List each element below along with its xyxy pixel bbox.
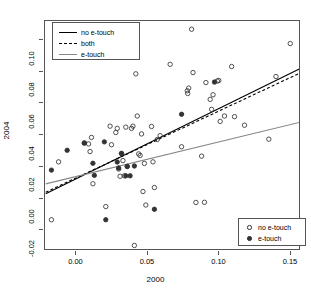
data-point-no-e-touch: [222, 114, 226, 118]
marker-legend: no e-touch e-touch: [238, 218, 306, 246]
data-point-no-e-touch: [186, 91, 190, 95]
legend-row-e-touch-marker: e-touch: [244, 233, 300, 244]
data-point-no-e-touch: [202, 200, 206, 204]
x-tick-mark: [147, 251, 148, 255]
y-tick-mark: [39, 229, 43, 230]
y-axis-title: 2004: [2, 111, 11, 151]
data-point-no-e-touch: [208, 97, 212, 101]
data-point-no-e-touch: [168, 62, 172, 66]
data-point-no-e-touch: [134, 72, 138, 76]
dashed-black-line-key: [58, 38, 78, 49]
x-axis-title: 2000: [0, 275, 311, 284]
x-tick-label: 0.10: [198, 257, 238, 266]
data-point-no-e-touch: [211, 93, 215, 97]
data-point-no-e-touch: [274, 74, 278, 78]
legend-label-both-line: both: [78, 38, 95, 49]
data-point-no-e-touch: [132, 243, 136, 247]
data-point-no-e-touch: [124, 125, 128, 129]
data-point-no-e-touch: [209, 107, 213, 111]
data-point-no-e-touch: [108, 124, 112, 128]
legend-row-no-e-touch-marker: no e-touch: [244, 222, 300, 233]
legend-row-both-line: both: [58, 38, 134, 49]
data-point-no-e-touch: [232, 114, 236, 118]
line-legend: no e-touch both e-touch: [52, 22, 140, 60]
y-tick-mark: [39, 134, 43, 135]
x-tick-label: 0.00: [55, 257, 95, 266]
data-point-no-e-touch: [139, 132, 143, 136]
data-point-no-e-touch: [194, 200, 198, 204]
data-point-e-touch: [128, 174, 132, 178]
legend-row-e-touch-line: e-touch: [58, 49, 134, 60]
data-point-no-e-touch: [152, 185, 156, 189]
data-point-e-touch: [119, 151, 123, 155]
x-tick-mark: [290, 251, 291, 255]
data-point-e-touch: [115, 160, 119, 164]
data-point-no-e-touch: [267, 137, 271, 141]
data-point-no-e-touch: [86, 142, 90, 146]
data-point-no-e-touch: [91, 182, 95, 186]
data-point-e-touch: [92, 173, 96, 177]
legend-label-e-touch-marker: e-touch: [255, 233, 281, 244]
legend-row-no-e-touch-line: no e-touch: [58, 27, 134, 38]
data-point-no-e-touch: [115, 126, 119, 130]
data-point-no-e-touch: [151, 160, 155, 164]
open-circle-marker-key: [244, 222, 255, 233]
data-point-e-touch: [91, 161, 95, 165]
y-tick-mark: [39, 166, 43, 167]
x-tick-mark: [75, 251, 76, 255]
data-point-e-touch: [125, 164, 129, 168]
data-point-e-touch: [102, 140, 106, 144]
data-point-no-e-touch: [89, 135, 93, 139]
data-point-no-e-touch: [88, 149, 92, 153]
data-point-no-e-touch: [56, 160, 60, 164]
data-point-no-e-touch: [204, 80, 208, 84]
data-point-no-e-touch: [142, 161, 146, 165]
data-point-no-e-touch: [199, 154, 203, 158]
y-tick-mark: [39, 102, 43, 103]
data-point-e-touch: [65, 148, 69, 152]
data-point-no-e-touch: [135, 114, 139, 118]
data-point-e-touch: [179, 112, 183, 116]
solid-gray-line-key: [58, 49, 78, 60]
y-tick-mark: [39, 198, 43, 199]
data-point-no-e-touch: [242, 123, 246, 127]
x-tick-label: 0.05: [127, 257, 167, 266]
data-point-no-e-touch: [288, 41, 292, 45]
data-point-no-e-touch: [218, 119, 222, 123]
data-point-no-e-touch: [118, 174, 122, 178]
legend-label-no-e-touch-marker: no e-touch: [255, 222, 291, 233]
x-tick-label: 0.15: [270, 257, 310, 266]
data-point-no-e-touch: [104, 204, 108, 208]
data-point-e-touch: [132, 164, 136, 168]
y-tick-mark: [39, 39, 43, 40]
data-point-no-e-touch: [141, 189, 145, 193]
data-point-no-e-touch: [109, 143, 113, 147]
solid-black-line-key: [58, 27, 78, 38]
y-tick-mark: [39, 71, 43, 72]
data-point-no-e-touch: [121, 158, 125, 162]
data-point-no-e-touch: [229, 64, 233, 68]
data-point-e-touch: [212, 80, 216, 84]
data-point-e-touch: [116, 166, 120, 170]
data-point-no-e-touch: [149, 124, 153, 128]
data-point-no-e-touch: [49, 218, 53, 222]
data-point-no-e-touch: [144, 203, 148, 207]
x-tick-mark: [218, 251, 219, 255]
data-point-no-e-touch: [179, 145, 183, 149]
data-point-e-touch: [104, 218, 108, 222]
scatter-plot-figure: 2000 2004 no e-touch both e-touch no e-t…: [0, 0, 311, 293]
data-point-e-touch: [49, 168, 53, 172]
legend-label-e-touch-line: e-touch: [78, 49, 104, 60]
filled-circle-marker-key: [244, 233, 255, 244]
legend-label-no-e-touch-line: no e-touch: [78, 27, 114, 38]
data-point-e-touch: [124, 174, 128, 178]
y-tick-label: 0.10: [27, 38, 36, 78]
data-point-no-e-touch: [191, 70, 195, 74]
data-point-e-touch: [152, 207, 156, 211]
data-point-no-e-touch: [189, 27, 193, 31]
data-point-e-touch: [82, 141, 86, 145]
